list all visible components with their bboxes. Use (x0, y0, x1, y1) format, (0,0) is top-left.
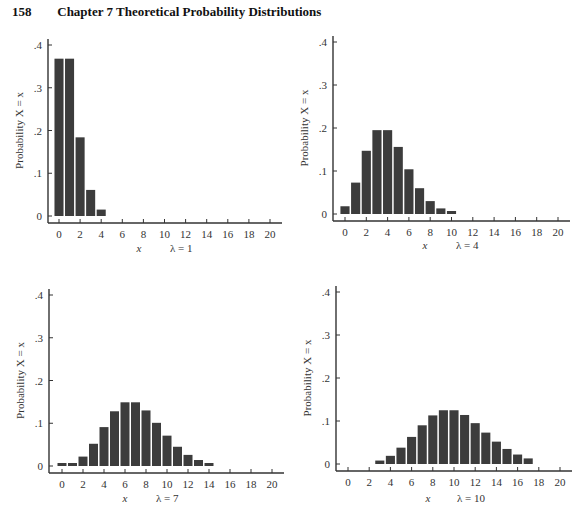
y-tick-label: 0 (322, 208, 328, 220)
x-tick-label: 12 (467, 226, 478, 238)
bar (362, 151, 371, 214)
x-tick-label: 18 (533, 476, 545, 488)
bar (449, 410, 458, 464)
bar (205, 463, 214, 466)
bar (68, 463, 77, 466)
y-tick-label: .3 (35, 332, 44, 344)
x-tick-label: 0 (56, 228, 62, 240)
y-tick-label: .2 (319, 122, 327, 134)
x-tick-label: 4 (388, 476, 394, 488)
bar (460, 415, 469, 464)
y-axis-title: Probability X = x (298, 89, 310, 166)
x-tick-label: 10 (446, 226, 458, 238)
bar (184, 455, 193, 466)
y-tick-label: .3 (319, 79, 328, 91)
y-tick-label: 0 (37, 210, 43, 222)
y-axis-title: Probability X = x (14, 342, 26, 419)
x-tick-label: 6 (120, 228, 126, 240)
bar (436, 208, 445, 214)
y-tick-label: .2 (35, 375, 43, 387)
x-tick-label: 8 (143, 478, 149, 490)
bar (396, 448, 405, 464)
bar (351, 183, 360, 214)
bar (163, 436, 172, 466)
bar (418, 425, 427, 464)
bar (142, 410, 151, 466)
x-tick-label: 2 (80, 478, 86, 490)
x-tick-label: 14 (204, 478, 216, 490)
chart-panel-3: 0.1.2.3.402468101214161820Probability X … (14, 289, 284, 504)
x-tick-label: 20 (555, 476, 567, 488)
x-axis-title: x (122, 492, 128, 504)
x-tick-label: 20 (265, 228, 277, 240)
bar (131, 402, 140, 466)
bar (386, 456, 395, 464)
x-tick-label: 8 (141, 228, 147, 240)
x-tick-label: 4 (101, 478, 107, 490)
x-axis-title: x (425, 492, 431, 504)
x-tick-label: 10 (162, 478, 174, 490)
x-tick-label: 12 (470, 476, 481, 488)
bar (152, 423, 161, 466)
x-tick-label: 14 (201, 228, 213, 240)
x-tick-label: 8 (430, 476, 436, 488)
y-tick-label: .4 (35, 289, 44, 301)
bar (58, 463, 67, 466)
bar (100, 427, 109, 466)
x-tick-label: 16 (512, 476, 524, 488)
bar (502, 449, 511, 464)
x-tick-label: 12 (180, 228, 191, 240)
bar (524, 458, 533, 464)
x-tick-label: 10 (159, 228, 171, 240)
bar (407, 437, 416, 464)
x-tick-label: 6 (406, 226, 412, 238)
bar (513, 455, 522, 464)
bar (110, 411, 119, 466)
bar (415, 188, 424, 214)
x-tick-label: 10 (449, 476, 461, 488)
x-tick-label: 4 (98, 228, 104, 240)
bar (426, 201, 435, 214)
bar (428, 415, 437, 464)
lambda-label: λ = 1 (170, 242, 193, 254)
bar (481, 433, 490, 464)
bar (383, 130, 392, 214)
x-tick-label: 12 (183, 478, 194, 490)
y-tick-label: .1 (319, 165, 327, 177)
bar (54, 59, 63, 216)
x-tick-label: 18 (531, 226, 543, 238)
y-tick-label: .2 (322, 372, 330, 384)
bar (439, 410, 448, 464)
x-tick-label: 4 (385, 226, 391, 238)
y-tick-label: .3 (34, 82, 43, 94)
x-tick-label: 2 (366, 476, 372, 488)
bar (340, 206, 349, 214)
x-tick-label: 20 (267, 478, 279, 490)
y-tick-label: .1 (322, 415, 330, 427)
y-tick-label: .4 (34, 39, 43, 51)
x-tick-label: 2 (77, 228, 83, 240)
x-tick-label: 18 (246, 478, 258, 490)
chart-panel-1: 0.1.2.3.402468101214161820Probability X … (13, 39, 282, 254)
x-tick-label: 16 (222, 228, 234, 240)
x-tick-label: 6 (122, 478, 128, 490)
bar (173, 447, 182, 466)
x-tick-label: 16 (225, 478, 237, 490)
x-axis-title: x (136, 242, 142, 254)
bar (372, 130, 381, 214)
x-tick-label: 6 (409, 476, 415, 488)
lambda-label: λ = 10 (457, 492, 486, 504)
y-tick-label: .1 (34, 167, 42, 179)
bar (404, 169, 413, 214)
bar (492, 442, 501, 464)
x-tick-label: 2 (364, 226, 370, 238)
y-tick-label: .4 (322, 286, 331, 298)
chart-panel-4: 0.1.2.3.402468101214161820Probability X … (301, 286, 572, 504)
bar (121, 402, 130, 466)
y-tick-label: .4 (319, 36, 328, 48)
y-tick-label: .3 (322, 329, 331, 341)
x-tick-label: 14 (489, 226, 501, 238)
bar (76, 137, 85, 216)
lambda-label: λ = 4 (456, 239, 479, 251)
bar (375, 461, 384, 464)
